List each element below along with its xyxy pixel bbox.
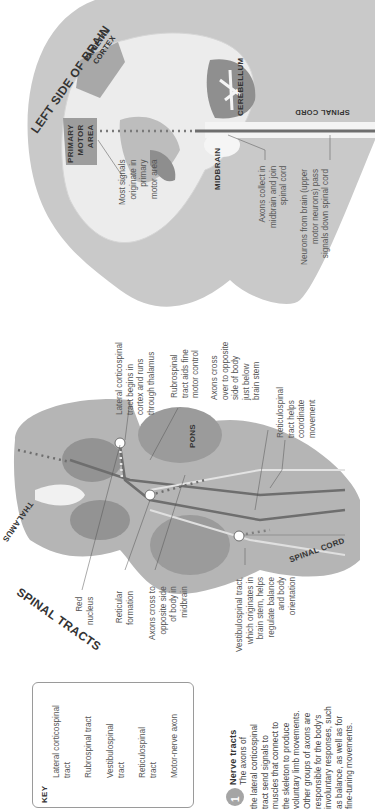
key-label-line: Vestibulospinal xyxy=(106,723,117,778)
annotation-line: motor neurons) pass xyxy=(311,169,322,265)
annotation-most-signals: Most signals originate in primary motor … xyxy=(118,159,160,205)
caption-line: Other groups of axons are xyxy=(302,706,313,809)
key-item-lateral-corticospinal: Lateral corticospinal tract xyxy=(52,705,73,778)
annotation-line: of body in xyxy=(169,586,180,640)
annotation-line: Vestibulospinal tract, xyxy=(235,577,246,652)
annotation-red-nucleus: Red nucleus xyxy=(75,597,96,625)
annotation-reticular-formation: Reticular formation xyxy=(115,591,136,625)
annotation-line: spinal cord xyxy=(279,166,290,228)
annotation-line: brain stem, helps xyxy=(256,577,267,652)
annotation-axons-collect: Axons collect in midbrain and join spina… xyxy=(258,166,290,228)
annotation-line: opposite side xyxy=(159,586,170,640)
annotation-neurons-from-brain: Neurons from brain (upper motor neurons)… xyxy=(300,169,332,265)
caption-line: involuntary responses, such xyxy=(323,706,334,809)
annotation-line: Lateral corticospinal xyxy=(115,342,126,415)
annotation-line: formation xyxy=(126,591,137,625)
label-cerebellum: CEREBELLUM xyxy=(236,57,245,116)
caption-line: responsible for the body's xyxy=(313,706,324,809)
annotation-rubrospinal: Rubrospinal tract aids fine motor contro… xyxy=(170,349,202,398)
annotation-line: Axons cross to xyxy=(148,586,159,640)
annotation-line: Most signals xyxy=(118,159,129,205)
annotation-line: which originates in xyxy=(246,577,257,652)
label-line: PRIMARY xyxy=(66,124,76,163)
caption-line: fine-tuning movements. xyxy=(344,706,355,809)
caption-number: 1 xyxy=(230,796,241,802)
annotation-line: over to opposite xyxy=(221,342,232,400)
label-midbrain: MIDBRAIN xyxy=(213,148,222,190)
annotation-line: Reticulospinal xyxy=(276,387,287,438)
label-pons: PONS xyxy=(188,424,197,448)
annotation-line: and body xyxy=(277,577,288,652)
key-label-line: Motor-nerve axon xyxy=(170,714,181,778)
annotation-line: brain stem xyxy=(252,342,263,400)
annotation-line: Neurons from brain (upper xyxy=(300,169,311,265)
annotation-line: nucleus xyxy=(86,597,97,625)
annotation-line: tract helps xyxy=(287,387,298,438)
annotation-line: signals down spinal cord xyxy=(321,169,332,265)
key-label-line: Rubrospinal tract xyxy=(84,716,95,778)
annotation-line: tract begins in xyxy=(126,342,137,415)
annotation-line: Rubrospinal xyxy=(170,349,181,398)
annotation-vestibulospinal: Vestibulospinal tract, which originates … xyxy=(235,577,298,652)
annotation-line: motor control xyxy=(191,349,202,398)
key-title: KEY xyxy=(40,786,49,803)
label-line: MOTOR xyxy=(76,124,86,163)
annotation-line: tract aids fine xyxy=(181,349,192,398)
annotation-line: Axons cross xyxy=(210,342,221,400)
annotation-line: Reticular xyxy=(115,591,126,625)
key-label-line: Lateral corticospinal xyxy=(52,705,63,778)
key-item-reticulospinal: Reticulospinal tract xyxy=(138,727,159,778)
key-label-line: Reticulospinal xyxy=(138,727,149,778)
label-primary-motor-area: PRIMARY MOTOR AREA xyxy=(66,124,96,163)
key-label-line: tract xyxy=(117,723,128,778)
key-item-vestibulospinal: Vestibulospinal tract xyxy=(106,723,127,778)
annotation-line: just below xyxy=(242,342,253,400)
caption-line: tract send signals to xyxy=(260,706,271,809)
caption-line: as balance, as well as for xyxy=(334,706,345,809)
caption-line: the lateral corticospinal xyxy=(249,706,260,809)
annotation-line: midbrain xyxy=(180,586,191,640)
annotation-reticulospinal: Reticulospinal tract helps coordinate mo… xyxy=(276,387,318,438)
caption-line: The axons of xyxy=(238,737,249,785)
annotation-line: movement xyxy=(308,387,319,438)
annotation-line: originate in xyxy=(129,159,140,205)
caption-line: voluntary limb movements. xyxy=(291,706,302,809)
annotation-line: motor area xyxy=(150,159,161,205)
key-label-line: tract xyxy=(63,705,74,778)
annotation-axons-cross-midbrain: Axons cross to opposite side of body in … xyxy=(148,586,190,640)
annotation-line: primary xyxy=(139,159,150,205)
annotation-line: cortex and runs xyxy=(136,342,147,415)
caption-heading: Nerve tracts xyxy=(228,729,238,785)
annotation-axons-cross-brainstem: Axons cross over to opposite side of bod… xyxy=(210,342,263,400)
annotation-lateral-corticospinal: Lateral corticospinal tract begins in co… xyxy=(115,342,157,415)
annotation-line: Red xyxy=(75,597,86,625)
annotation-line: orientation xyxy=(288,577,299,652)
caption-body-rest: the lateral corticospinal tract send sig… xyxy=(249,706,355,809)
label-spinal-cord-brain: SPINAL CORD xyxy=(295,108,350,117)
caption-line: the skeleton to produce xyxy=(281,706,292,809)
key-item-motor-nerve-axon: Motor-nerve axon xyxy=(170,714,181,778)
annotation-line: side of body xyxy=(231,342,242,400)
label-line: AREA xyxy=(86,124,96,163)
caption-body: The axons of xyxy=(238,737,249,785)
annotation-line: through thalamus xyxy=(147,342,158,415)
key-item-rubrospinal: Rubrospinal tract xyxy=(84,716,95,778)
annotation-line: coordinate xyxy=(297,387,308,438)
annotation-line: regulate balance xyxy=(267,577,278,652)
annotation-line: midbrain and join xyxy=(269,166,280,228)
annotation-line: Axons collect in xyxy=(258,166,269,228)
key-label-line: tract xyxy=(149,727,160,778)
caption-line: muscles that connect to xyxy=(270,706,281,809)
pons-shape xyxy=(138,407,222,463)
